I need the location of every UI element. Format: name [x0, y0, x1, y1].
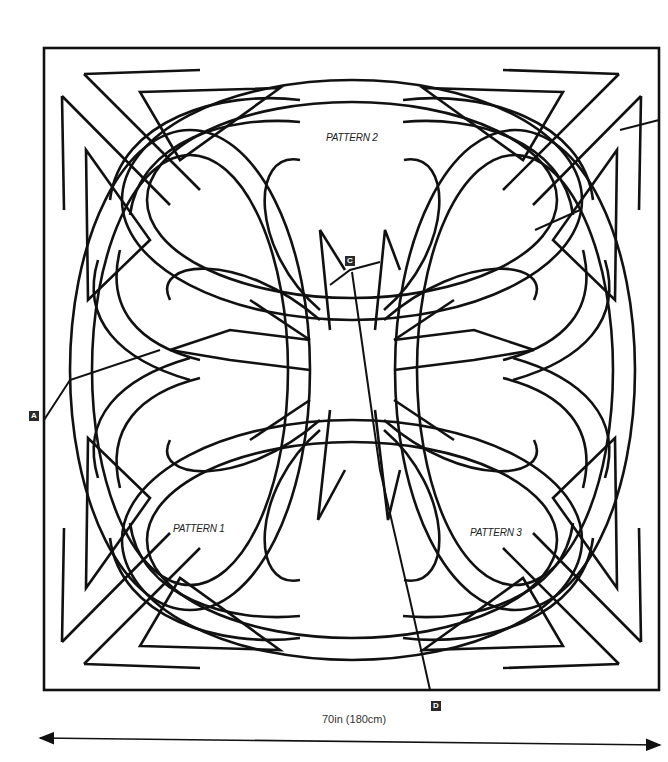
quilt-diagram: PATTERN 1 PATTERN 2 PATTERN 3 A C D 70in…: [0, 0, 668, 762]
pattern-2-label: PATTERN 2: [326, 132, 378, 143]
marker-c: C: [345, 256, 355, 266]
pattern-3-label: PATTERN 3: [470, 527, 522, 538]
knot-drawing: [0, 0, 668, 762]
pattern-1-label: PATTERN 1: [173, 523, 225, 534]
marker-d: D: [431, 701, 441, 711]
dimension-arrow: [40, 738, 660, 745]
marker-a: A: [29, 411, 39, 421]
dimension-label: 70in (180cm): [322, 713, 386, 725]
